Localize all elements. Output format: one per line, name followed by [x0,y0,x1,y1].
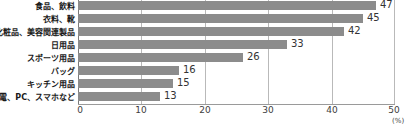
bar-value-label: 26 [247,51,260,63]
x-tick-label: 20 [199,105,210,116]
category-label: キッチン用品 [27,80,75,90]
bar [78,79,173,88]
bar [78,66,179,75]
x-tick-label: 0 [77,105,83,116]
x-tick-label: 10 [135,105,146,116]
category-label: バッグ [51,67,75,77]
category-label: スポーツ用品 [27,54,75,64]
bar-rows: 47 45 42 33 26 16 [78,0,395,104]
x-axis-tick-labels: 0 10 20 30 40 50 [78,105,395,119]
bar-value-label: 45 [367,12,380,24]
category-label: 家電、PC、スマホなど [0,93,75,103]
category-label: 化粧品、美容関連製品 [0,28,75,38]
bar [78,92,160,101]
bar-row: 33 [78,40,395,53]
bar-chart: 食品、飲料 衣料、靴 化粧品、美容関連製品 日用品 スポーツ用品 バッグ キッチ… [0,0,416,133]
bar-row: 26 [78,53,395,66]
bar-value-label: 15 [177,77,190,89]
bar-row: 47 [78,1,395,14]
bar [78,40,287,49]
x-axis-unit-label: (%) [392,117,404,126]
plot-area: 47 45 42 33 26 16 [78,0,395,104]
x-tick-label: 40 [326,105,337,116]
bar-row: 16 [78,66,395,79]
bar-row: 42 [78,27,395,40]
category-axis-labels: 食品、飲料 衣料、靴 化粧品、美容関連製品 日用品 スポーツ用品 バッグ キッチ… [0,0,75,104]
bar-value-label: 47 [380,0,393,11]
x-tick-label: 50 [388,105,399,116]
category-label: 日用品 [51,41,75,51]
bar [78,14,363,23]
bar-value-label: 13 [164,90,177,102]
bar-value-label: 42 [348,25,361,37]
bar [78,1,376,10]
x-tick-label: 30 [262,105,273,116]
category-label: 衣料、靴 [43,15,75,25]
bar-row: 15 [78,79,395,92]
bar-value-label: 16 [183,64,196,76]
category-label: 食品、飲料 [35,2,75,12]
bar-value-label: 33 [291,38,304,50]
bar [78,53,243,62]
bar [78,27,344,36]
